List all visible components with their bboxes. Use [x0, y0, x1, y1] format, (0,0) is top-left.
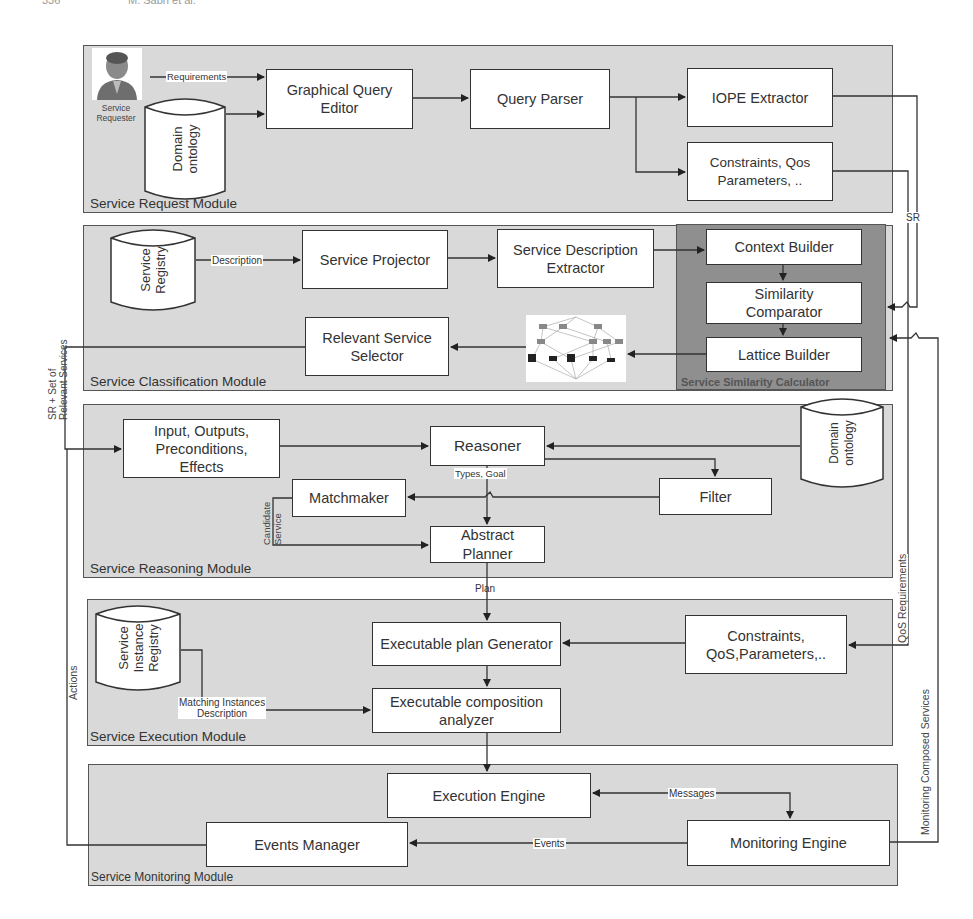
module-label: Service Monitoring Module — [91, 870, 233, 884]
monitoring-engine[interactable]: Monitoring Engine — [687, 820, 890, 866]
types-goal-label: Types, Goal — [454, 468, 507, 479]
iope-box[interactable]: Input, Outputs, Preconditions, Effects — [123, 419, 280, 478]
module-label: Service Execution Module — [90, 729, 246, 744]
candidate-service-label: Candidate Service — [261, 502, 283, 545]
requirements-label: Requirements — [166, 71, 227, 82]
messages-label: Messages — [668, 788, 716, 799]
concept-lattice-image — [526, 315, 626, 382]
domain-ontology-datastore: Domain ontology — [144, 97, 226, 201]
actions-label: Actions — [68, 666, 79, 700]
relevant-service-selector[interactable]: Relevant Service Selector — [305, 317, 449, 376]
running-header: M. Sabri et al. — [128, 0, 196, 6]
service-requester-label: Service Requester — [86, 103, 146, 123]
calculator-label: Service Similarity Calculator — [681, 376, 830, 388]
executable-plan-generator[interactable]: Executable plan Generator — [372, 622, 561, 666]
reasoner[interactable]: Reasoner — [430, 426, 545, 466]
plan-label: Plan — [474, 583, 496, 594]
service-instance-registry-datastore: Service Instance Registry — [95, 604, 181, 692]
module-label: Service Reasoning Module — [90, 561, 251, 576]
service-registry-datastore: Service Registry — [110, 228, 196, 312]
lattice-graph-icon — [526, 315, 626, 382]
constraints-qos-request[interactable]: Constraints, Qos Parameters, .. — [687, 142, 833, 201]
constraints-qos-execution[interactable]: Constraints, QoS,Parameters,.. — [685, 615, 847, 674]
matching-instances-label: Matching Instances Description — [178, 697, 266, 719]
page-number: 336 — [42, 0, 60, 6]
executable-composition-analyzer[interactable]: Executable composition analyzer — [372, 688, 561, 733]
monitoring-composed-services-label: Monitoring Composed Services — [920, 689, 931, 835]
datastore-label: Service Registry — [138, 246, 168, 294]
context-builder[interactable]: Context Builder — [706, 229, 862, 265]
service-projector[interactable]: Service Projector — [302, 230, 448, 289]
abstract-planner[interactable]: Abstract Planner — [430, 526, 545, 563]
user-icon — [92, 48, 142, 100]
lattice-builder[interactable]: Lattice Builder — [706, 337, 862, 372]
graphical-query-editor[interactable]: Graphical Query Editor — [266, 69, 413, 129]
matchmaker[interactable]: Matchmaker — [292, 479, 406, 517]
qos-requirements-label: QoS Requirements — [897, 554, 908, 643]
datastore-label: Domain ontology — [827, 420, 857, 465]
query-parser[interactable]: Query Parser — [470, 69, 610, 129]
similarity-comparator[interactable]: Similarity Comparator — [706, 282, 862, 324]
sr-set-relevant-services-label: SR + Set of Relevant Services — [47, 339, 69, 420]
events-manager[interactable]: Events Manager — [206, 822, 408, 867]
sr-label: SR — [905, 212, 921, 223]
execution-engine[interactable]: Execution Engine — [387, 773, 591, 818]
datastore-label: Service Instance Registry — [116, 623, 161, 672]
domain-ontology-reasoning-datastore: Domain ontology — [800, 397, 884, 489]
iope-extractor[interactable]: IOPE Extractor — [687, 68, 833, 127]
datastore-label: Domain ontology — [170, 124, 200, 173]
events-label: Events — [533, 838, 566, 849]
description-label: Description — [211, 255, 263, 266]
service-description-extractor[interactable]: Service Description Extractor — [497, 229, 654, 288]
filter[interactable]: Filter — [659, 478, 772, 515]
module-label: Service Classification Module — [90, 374, 266, 389]
service-requester-actor — [92, 48, 142, 100]
